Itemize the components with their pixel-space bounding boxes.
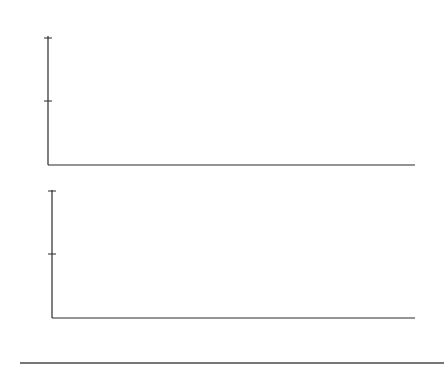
figure: [0, 0, 444, 370]
top-panel: [44, 36, 415, 165]
bottom-panel: [48, 190, 415, 318]
page-edge-rule: [20, 362, 444, 364]
